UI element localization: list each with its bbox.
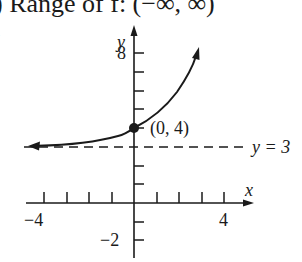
y-tick-label-neg2: −2	[100, 230, 119, 250]
curve-right-arrow-icon	[192, 47, 200, 60]
y-tick-label-8: 8	[117, 43, 126, 63]
x-axis-label: x	[244, 180, 253, 200]
x-axis-arrow-icon	[243, 200, 254, 207]
asymptote-label: y = 3	[250, 137, 290, 157]
header-range-text: ) Range of f: (−∞, ∞)	[0, 0, 215, 18]
y-axis-arrow-icon	[131, 25, 138, 36]
curve-left-arrow-icon	[28, 142, 40, 151]
x-tick-label-neg4: −4	[24, 210, 43, 230]
point-marker	[129, 123, 139, 133]
point-label: (0, 4)	[150, 118, 189, 139]
function-graph: ) Range of f: (−∞, ∞) b	[0, 0, 302, 262]
x-tick-label-4: 4	[219, 210, 228, 230]
